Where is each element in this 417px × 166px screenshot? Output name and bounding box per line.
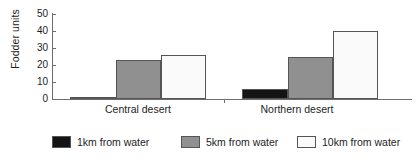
y-tick-label-30: 30 <box>26 43 48 53</box>
plot-area <box>52 14 412 99</box>
y-tick-label-0: 0 <box>26 94 48 104</box>
bar-northern-5km <box>288 57 333 100</box>
y-tick-label-10: 10 <box>26 77 48 87</box>
bar-central-1km <box>70 97 116 99</box>
legend-item-5km: 5km from water <box>181 136 278 148</box>
bar-northern-10km <box>333 31 378 99</box>
bar-chart: Fodder units 50 40 30 20 10 0 Central de… <box>0 0 417 166</box>
bar-central-5km <box>116 60 161 99</box>
legend-item-1km: 1km from water <box>52 136 149 148</box>
x-axis-label-central: Central desert <box>78 103 198 115</box>
bar-central-10km <box>161 55 206 99</box>
legend-label-10km: 10km from water <box>322 136 400 148</box>
x-axis-group-separator-tick <box>224 99 225 103</box>
legend-swatch-1km-icon <box>52 136 71 148</box>
y-tick-label-40: 40 <box>26 26 48 36</box>
y-tick-label-20: 20 <box>26 60 48 70</box>
legend-label-5km: 5km from water <box>206 136 278 148</box>
x-axis-line <box>52 99 412 100</box>
x-axis-label-northern: Northern desert <box>232 103 362 115</box>
y-tick-label-50: 50 <box>26 9 48 19</box>
legend-item-10km: 10km from water <box>297 136 400 148</box>
y-tick-mark-0 <box>52 99 56 100</box>
legend-swatch-5km-icon <box>181 136 200 148</box>
y-axis-title: Fodder units <box>9 0 21 79</box>
legend-label-1km: 1km from water <box>77 136 149 148</box>
legend-swatch-10km-icon <box>297 136 316 148</box>
bar-northern-1km <box>242 89 288 99</box>
chart-legend: 1km from water 5km from water 10km from … <box>0 136 417 158</box>
